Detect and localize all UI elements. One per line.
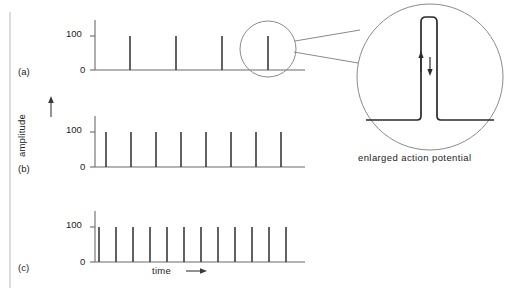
magnifier-connector (294, 30, 360, 63)
magnifier-caption: enlarged action potential (358, 152, 472, 163)
panel-a-tick-label-0: 0 (80, 64, 85, 75)
panel-b (90, 116, 305, 167)
amplitude-axis-arrow (48, 96, 54, 117)
y-axis-label: amplitude (16, 101, 27, 171)
repolarization-arrow-icon (427, 57, 432, 76)
magnifier-circle (357, 4, 503, 150)
panel-label-a: (a) (18, 66, 30, 77)
panel-b-spikes (106, 132, 281, 167)
magnifier-view (357, 4, 503, 150)
panel-c-tick-label-100: 100 (66, 219, 82, 230)
panel-c (90, 211, 305, 262)
panel-c-tick-label-0: 0 (80, 256, 85, 267)
depolarization-arrow-icon (418, 51, 423, 72)
panel-b-tick-label-100: 100 (66, 124, 82, 135)
panel-a-tick-label-100: 100 (66, 28, 82, 39)
figure-canvas (0, 0, 506, 297)
panel-c-spikes (99, 227, 286, 262)
panel-a (90, 20, 305, 77)
panel-label-c: (c) (18, 262, 29, 273)
time-axis-arrow (186, 268, 207, 274)
panel-a-spikes (130, 36, 268, 70)
panel-b-tick-label-0: 0 (80, 161, 85, 172)
x-axis-label: time (152, 265, 171, 276)
